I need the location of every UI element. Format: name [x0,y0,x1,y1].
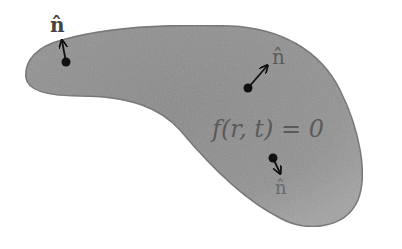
normal-label: n̂ [50,13,65,37]
normal-label: n̂ [272,45,285,69]
normal-label: n̂ [275,177,287,198]
level-set-diagram: f(r, t) = 0 n̂ n̂ n̂ [0,0,402,249]
equation-label: f(r, t) = 0 [210,115,324,143]
